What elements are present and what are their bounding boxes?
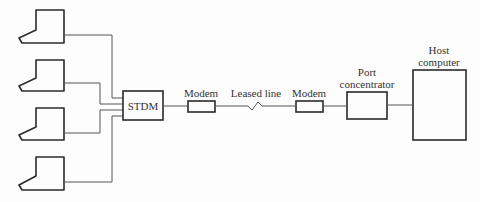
stdm-label: STDM: [123, 100, 163, 112]
terminal-icon-2: [19, 60, 64, 91]
wire-terminal-1: [64, 35, 123, 98]
host-computer-box: [413, 70, 466, 140]
network-diagram: STDM Modem Leased line Modem Port concen…: [0, 0, 480, 202]
modem-right-label: Modem: [289, 87, 329, 99]
port-concentrator-label-line1: Port: [337, 66, 397, 78]
leased-line-label: Leased line: [226, 87, 286, 99]
wire-terminal-4: [64, 116, 123, 182]
host-label-line1: Host: [409, 44, 469, 56]
port-concentrator-label-line2: concentrator: [332, 78, 402, 90]
terminal-icon-1: [19, 10, 64, 43]
modem-left-box: [188, 101, 215, 112]
host-label-line2: computer: [404, 56, 474, 68]
modem-left-label: Modem: [181, 87, 221, 99]
modem-right-box: [296, 101, 323, 112]
diagram-canvas: [0, 0, 480, 202]
wire-terminal-2: [64, 83, 123, 104]
terminal-icon-3: [19, 108, 64, 140]
terminal-icon-4: [19, 157, 64, 190]
port-concentrator-box: [347, 92, 387, 119]
wire-terminal-3: [64, 110, 123, 133]
leased-line-link: [215, 102, 296, 110]
